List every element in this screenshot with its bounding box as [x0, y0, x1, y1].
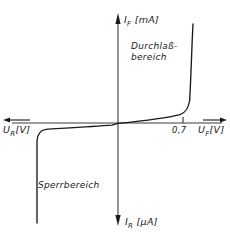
forward-region-line2: bereich [131, 52, 178, 63]
if-unit: [mA] [135, 14, 159, 25]
reverse-voltage-arrow-icon [3, 118, 30, 123]
axis-arrow-down-icon [115, 215, 120, 226]
forward-region-label: Durchlaß- bereich [131, 41, 178, 63]
axis-label-reverse-voltage: UR[V] [3, 124, 30, 138]
if-subscript: F [127, 20, 131, 28]
reverse-region-label: Sperrbereich [38, 180, 100, 191]
axis-label-reverse-current: IR [µA] [125, 216, 158, 230]
forward-voltage-arrow-icon [203, 118, 227, 123]
diode-characteristic-chart: IF [mA] IR [µA] UR[V] UF[V] 0,7 Durchlaß… [0, 0, 230, 239]
uf-unit: [V] [210, 124, 225, 135]
axis-label-forward-voltage: UF[V] [198, 124, 224, 138]
ur-unit: [V] [15, 124, 30, 135]
threshold-tick-label: 0,7 [172, 125, 186, 135]
ir-subscript: R [128, 222, 133, 230]
axis-label-forward-current: IF [mA] [124, 14, 159, 28]
axis-arrow-up-icon [115, 13, 120, 24]
forward-region-line1: Durchlaß- [131, 41, 178, 52]
ir-unit: [µA] [137, 216, 158, 227]
chart-canvas [0, 0, 230, 239]
